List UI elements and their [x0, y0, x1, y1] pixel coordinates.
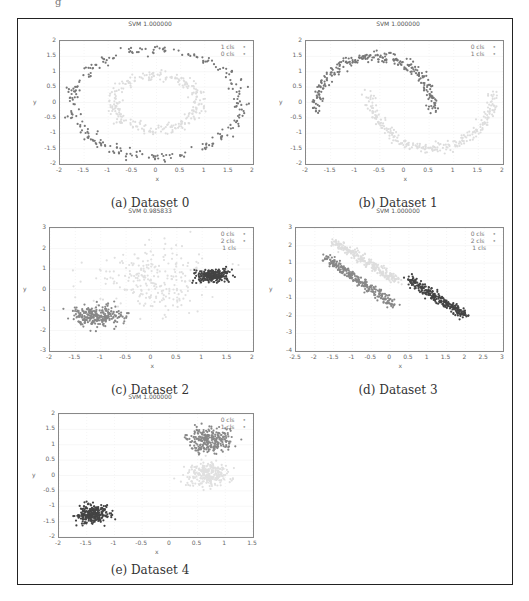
y-tick-label: -1 [288, 128, 302, 135]
y-tick-label: 1 [288, 67, 302, 74]
y-tick-label: 1 [278, 258, 292, 265]
x-tick-label: 1.5 [219, 353, 235, 360]
y-tick-label: -3 [32, 346, 46, 353]
legend: 0 cls•2 cls•1 cls [221, 230, 246, 251]
y-tick-label: 2 [42, 36, 56, 43]
legend-marker-icon: • [492, 43, 496, 50]
subfigure-c: SVM 0.985833 (c) Dataset 2 -2-1.5-1-0.50… [25, 207, 275, 397]
x-tick-label: 0 [143, 353, 159, 360]
y-tick-label: 0 [32, 285, 46, 292]
legend-entry: 1 cls [221, 244, 246, 251]
x-tick-label: -0.5 [371, 166, 387, 173]
x-axis-label: x [155, 548, 159, 555]
legend-marker-icon [494, 244, 496, 251]
x-tick-label: -1 [99, 166, 115, 173]
y-tick-label: -0.5 [41, 486, 55, 493]
x-tick-label: 1.5 [220, 166, 236, 173]
legend: 1 cls•0 cls• [221, 43, 246, 57]
y-tick-label: 2 [32, 244, 46, 251]
legend-entry: 1 cls• [221, 43, 246, 50]
y-tick-label: 1.5 [288, 51, 302, 58]
y-tick-label: -3 [278, 328, 292, 335]
y-tick-label: 2 [288, 36, 302, 43]
legend: 0 cls•2 cls•1 cls [471, 230, 496, 251]
legend-marker-icon [244, 244, 246, 251]
x-axis-label: x [404, 175, 408, 182]
x-tick-label: 0.5 [420, 166, 436, 173]
y-tick-label: -2 [288, 159, 302, 166]
x-tick-label: -0.5 [362, 353, 378, 360]
x-tick-label: -1 [105, 539, 121, 546]
plot-title: SVM 1.000000 [25, 393, 275, 400]
y-axis-label: y [279, 98, 283, 105]
plot-area [59, 40, 254, 165]
y-tick-label: 0.5 [41, 455, 55, 462]
y-tick-label: 1.5 [42, 51, 56, 58]
y-tick-label: 2 [41, 409, 55, 416]
x-tick-label: -1.5 [75, 166, 91, 173]
y-tick-label: -0.5 [42, 113, 56, 120]
legend: 0 cls•1 cls• [471, 43, 496, 57]
x-tick-label: 2.5 [475, 353, 491, 360]
y-tick-label: 0 [41, 471, 55, 478]
x-tick-label: 2 [494, 166, 510, 173]
y-axis-label: y [269, 285, 273, 292]
y-tick-label: -2 [278, 311, 292, 318]
x-tick-label: 2 [244, 166, 260, 173]
legend-marker-icon: • [242, 423, 246, 430]
legend-marker-icon: • [492, 230, 496, 237]
x-tick-label: 1 [419, 353, 435, 360]
y-tick-label: -1.5 [288, 144, 302, 151]
y-axis-label: y [33, 98, 37, 105]
scatter-plot [306, 41, 503, 164]
y-tick-label: -1.5 [41, 517, 55, 524]
x-tick-label: 1.5 [244, 539, 260, 546]
legend-entry: 1 cls• [471, 50, 496, 57]
x-tick-label: -0.5 [133, 539, 149, 546]
legend-marker-icon: • [242, 230, 246, 237]
x-tick-label: 1.5 [469, 166, 485, 173]
x-tick-label: 0.5 [189, 539, 205, 546]
subfigure-e: SVM 1.000000 (e) Dataset 4 -2-1.5-1-0.50… [25, 393, 275, 583]
x-tick-label: 0 [148, 166, 164, 173]
y-tick-label: 0 [42, 98, 56, 105]
legend-entry: 1 cls• [221, 423, 246, 430]
y-tick-label: -1.5 [42, 144, 56, 151]
x-tick-label: 2 [244, 353, 260, 360]
y-tick-label: 0.5 [42, 82, 56, 89]
legend-entry: 0 cls• [221, 50, 246, 57]
x-axis-label: x [399, 362, 403, 369]
y-tick-label: 1 [42, 67, 56, 74]
x-tick-label: 2 [456, 353, 472, 360]
x-tick-label: 0 [161, 539, 177, 546]
x-tick-label: 3 [494, 353, 510, 360]
y-tick-label: 1.5 [41, 424, 55, 431]
scatter-plot [60, 41, 253, 164]
y-tick-label: 1 [41, 440, 55, 447]
legend-marker-icon: • [242, 43, 246, 50]
x-tick-label: -1.5 [325, 353, 341, 360]
plot-title: SVM 1.000000 [273, 207, 523, 214]
y-tick-label: 3 [278, 223, 292, 230]
x-tick-label: 1 [193, 353, 209, 360]
legend-entry: 2 cls• [221, 237, 246, 244]
x-tick-label: -0.5 [123, 166, 139, 173]
x-tick-label: -1 [92, 353, 108, 360]
x-tick-label: 0 [396, 166, 412, 173]
x-tick-label: 1.5 [438, 353, 454, 360]
x-tick-label: 0.5 [400, 353, 416, 360]
x-tick-label: 1 [445, 166, 461, 173]
legend-entry: 0 cls• [471, 230, 496, 237]
x-tick-label: -2 [297, 166, 313, 173]
legend-entry: 0 cls• [471, 43, 496, 50]
x-tick-label: 0.5 [172, 166, 188, 173]
legend-marker-icon: • [242, 50, 246, 57]
x-axis-label: x [151, 362, 155, 369]
y-tick-label: -1 [32, 305, 46, 312]
y-tick-label: -4 [278, 346, 292, 353]
legend-marker-icon: • [492, 50, 496, 57]
y-tick-label: -0.5 [288, 113, 302, 120]
plot-title: SVM 1.000000 [273, 20, 523, 27]
x-tick-label: -1.5 [78, 539, 94, 546]
subfigure-a: SVM 1.000000 (a) Dataset 0 -2-1.5-1-0.50… [25, 20, 275, 210]
